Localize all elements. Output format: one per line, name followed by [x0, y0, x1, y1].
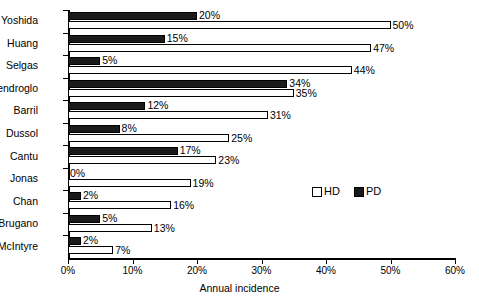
bar-value-label-pd: 0%	[70, 168, 85, 178]
bar-value-label-hd: 13%	[154, 223, 175, 233]
bar-hd	[68, 201, 171, 209]
bar-value-label-hd: 16%	[173, 200, 194, 210]
bar-value-label-hd: 7%	[115, 245, 130, 255]
bar-pd	[68, 80, 287, 88]
legend-item-pd: PD	[354, 186, 381, 197]
bar-value-label-hd: 31%	[270, 110, 291, 120]
x-axis-tick	[262, 258, 263, 264]
legend-label-pd: PD	[366, 186, 381, 197]
category-row: Jonas0%19%	[68, 168, 455, 191]
category-row: McIntyre2%7%	[68, 235, 455, 258]
bar-value-label-pd: 5%	[102, 213, 117, 223]
legend-swatch-hd-icon	[312, 187, 322, 197]
category-row: Selgas5%44%	[68, 55, 455, 78]
y-axis-category-label: Selgas	[0, 59, 38, 71]
x-axis-tick	[68, 258, 69, 264]
y-axis-tick	[63, 100, 68, 101]
y-axis-tick	[63, 55, 68, 56]
y-axis-tick	[63, 213, 68, 214]
bar-value-label-hd: 50%	[393, 20, 414, 30]
x-axis-tick	[133, 258, 134, 264]
bar-hd	[68, 21, 391, 29]
x-axis-tick-label: 60%	[430, 265, 479, 277]
bar-hd	[68, 44, 371, 52]
y-axis-category-label: Barril	[0, 104, 38, 116]
x-axis-tick	[391, 258, 392, 264]
bar-value-label-pd: 15%	[167, 33, 188, 43]
bar-hd	[68, 179, 191, 187]
bar-pd	[68, 125, 120, 133]
bar-value-label-hd: 23%	[218, 155, 239, 165]
bar-pd	[68, 35, 165, 43]
bar-value-label-pd: 20%	[199, 10, 220, 20]
y-axis-category-label: Cendroglo	[0, 82, 38, 94]
y-axis-tick	[63, 10, 68, 11]
y-axis-category-label: Huang	[0, 37, 38, 49]
x-axis-tick	[197, 258, 198, 264]
category-row: Huang15%47%	[68, 33, 455, 56]
bar-hd	[68, 156, 216, 164]
y-axis-category-label: Chan	[0, 195, 38, 207]
y-axis-tick	[63, 78, 68, 79]
bar-pd	[68, 102, 145, 110]
y-axis-tick	[63, 168, 68, 169]
bar-hd	[68, 224, 152, 232]
bar-value-label-pd: 17%	[180, 145, 201, 155]
x-axis-tick-label: 0%	[43, 265, 93, 277]
bar-pd	[68, 215, 100, 223]
y-axis-category-label: Cantu	[0, 150, 38, 162]
x-axis-tick-label: 50%	[366, 265, 416, 277]
y-axis-tick	[63, 123, 68, 124]
category-row: Cendroglo34%35%	[68, 78, 455, 101]
bar-pd	[68, 192, 81, 200]
x-axis-tick	[455, 258, 456, 264]
bar-value-label-pd: 2%	[83, 190, 98, 200]
bar-pd	[68, 57, 100, 65]
bar-value-label-hd: 35%	[296, 88, 317, 98]
figure: 0%10%20%30%40%50%60% Yoshida20%50%Huang1…	[0, 0, 479, 305]
y-axis-tick	[63, 33, 68, 34]
y-axis-tick	[63, 190, 68, 191]
legend-label-hd: HD	[324, 186, 340, 197]
category-row: Cantu17%23%	[68, 145, 455, 168]
category-row: Dussol8%25%	[68, 123, 455, 146]
figure-caption	[18, 299, 468, 305]
category-row: Yoshida20%50%	[68, 10, 455, 33]
x-axis-tick-label: 40%	[301, 265, 351, 277]
y-axis-category-label: Jonas	[0, 172, 38, 184]
bar-value-label-pd: 8%	[122, 123, 137, 133]
bar-hd	[68, 89, 294, 97]
category-row: Barril12%31%	[68, 100, 455, 123]
x-axis-tick-label: 20%	[172, 265, 222, 277]
bar-value-label-hd: 47%	[373, 43, 394, 53]
x-axis-title: Annual incidence	[0, 282, 479, 294]
bar-value-label-hd: 25%	[231, 133, 252, 143]
bar-hd	[68, 134, 229, 142]
x-axis-tick-label: 30%	[237, 265, 287, 277]
category-row: Chan2%16%	[68, 190, 455, 213]
bar-value-label-pd: 5%	[102, 55, 117, 65]
category-row: Brugano5%13%	[68, 213, 455, 236]
y-axis-tick	[63, 145, 68, 146]
bar-hd	[68, 246, 113, 254]
y-axis-category-label: McIntyre	[0, 240, 38, 252]
y-axis-category-label: Dussol	[0, 127, 38, 139]
y-axis-tick	[63, 235, 68, 236]
y-axis-category-label: Yoshida	[0, 14, 38, 26]
legend: HD PD	[312, 186, 381, 197]
bar-pd	[68, 147, 178, 155]
bar-pd	[68, 12, 197, 20]
bar-value-label-pd: 12%	[147, 100, 168, 110]
bar-value-label-hd: 19%	[193, 178, 214, 188]
x-axis-tick	[326, 258, 327, 264]
bar-hd	[68, 66, 352, 74]
y-axis-category-label: Brugano	[0, 217, 38, 229]
legend-item-hd: HD	[312, 186, 340, 197]
legend-swatch-pd-icon	[354, 187, 364, 197]
x-axis-tick-label: 10%	[108, 265, 158, 277]
bar-hd	[68, 111, 268, 119]
bar-value-label-pd: 2%	[83, 235, 98, 245]
bar-value-label-hd: 44%	[354, 65, 375, 75]
bar-pd	[68, 237, 81, 245]
